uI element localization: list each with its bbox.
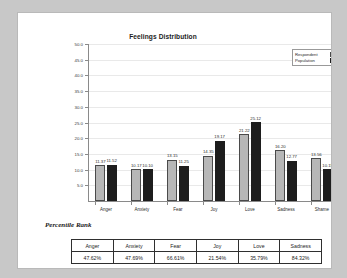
chart-legend: Respondent Population — [292, 49, 331, 66]
x-tick-label-fear: Fear — [173, 207, 182, 212]
bar-value-label: 12.77 — [286, 154, 297, 159]
bar-fear-population — [179, 166, 189, 201]
table-value-cell-fear: 66.61% — [155, 252, 197, 264]
x-tick-label-shame: Shame — [315, 207, 329, 212]
bar-value-label: 21.22 — [239, 128, 250, 133]
table-value-cell-joy: 21.54% — [196, 252, 238, 264]
table-header-cell-fear: Fear — [155, 240, 197, 252]
y-tick-mark — [85, 44, 88, 45]
y-tick-mark — [85, 185, 88, 186]
bar-fear-respondent — [167, 160, 177, 201]
gridline — [88, 123, 331, 124]
bar-joy-respondent — [203, 156, 213, 201]
table-row: 47.62%47.69%66.61%21.54%35.79%84.32% — [72, 252, 322, 264]
legend-swatch-respondent-icon — [330, 52, 331, 57]
bar-anxiety-respondent — [131, 169, 141, 201]
bar-value-label: 11.25 — [178, 159, 188, 164]
x-tick-mark — [275, 202, 276, 205]
bar-joy-population — [215, 141, 225, 201]
legend-label-respondent: Respondent — [295, 52, 318, 57]
table-header-cell-joy: Joy — [196, 240, 238, 252]
gridline — [88, 75, 331, 76]
table-header-row: AngerAnxietyFearJoyLoveSadness — [72, 240, 322, 252]
x-tick-label-joy: Joy — [210, 207, 217, 212]
y-tick-mark — [85, 60, 88, 61]
y-tick-mark — [85, 138, 88, 139]
report-page: Feelings Distribution 5.010.015.020.025.… — [17, 12, 332, 269]
gridline — [88, 138, 331, 139]
x-tick-label-sadness: Sadness — [277, 207, 295, 212]
bar-anger-respondent — [95, 165, 105, 201]
bar-value-label: 25.12 — [250, 116, 261, 121]
plot-area: 5.010.015.020.025.030.035.040.045.050.0 … — [88, 44, 331, 202]
bar-sadness-respondent — [275, 150, 285, 201]
y-tick-mark — [85, 75, 88, 76]
x-tick-mark — [95, 202, 96, 205]
x-tick-mark — [131, 202, 132, 205]
x-tick-mark — [203, 202, 204, 205]
table-header-cell-anger: Anger — [72, 240, 114, 252]
bar-love-respondent — [239, 134, 249, 201]
x-axis — [88, 201, 331, 202]
table-header-cell-sadness: Sadness — [280, 240, 322, 252]
y-tick-mark — [85, 91, 88, 92]
table-header-cell-love: Love — [238, 240, 280, 252]
percentile-rank-table: AngerAnxietyFearJoyLoveSadness 47.62%47.… — [71, 239, 322, 264]
chart-title: Feelings Distribution — [18, 33, 308, 40]
bar-anxiety-population — [143, 169, 153, 201]
x-tick-mark — [311, 202, 312, 205]
gridline — [88, 91, 331, 92]
bar-value-label: 13.15 — [167, 153, 178, 158]
legend-item-population: Population — [295, 58, 331, 64]
bar-value-label: 10.10 — [142, 163, 153, 168]
x-tick-mark — [239, 202, 240, 205]
table-header-cell-anxiety: Anxiety — [113, 240, 155, 252]
y-tick-label: 40.0 — [74, 73, 83, 78]
y-tick-label: 35.0 — [74, 89, 83, 94]
bar-value-label: 11.37 — [95, 159, 105, 164]
bar-value-label: 14.35 — [203, 149, 214, 154]
bar-value-label: 16.20 — [275, 144, 286, 149]
y-tick-mark — [85, 154, 88, 155]
table-value-cell-sadness: 84.32% — [280, 252, 322, 264]
x-tick-label-anger: Anger — [100, 207, 112, 212]
x-tick-label-love: Love — [245, 207, 255, 212]
table-value-cell-anger: 47.62% — [72, 252, 114, 264]
bar-shame-respondent — [311, 158, 321, 201]
y-tick-label: 20.0 — [74, 136, 83, 141]
y-tick-label: 30.0 — [74, 104, 83, 109]
x-tick-mark — [167, 202, 168, 205]
bar-sadness-population — [287, 161, 297, 201]
x-tick-label-anxiety: Anxiety — [135, 207, 150, 212]
feelings-distribution-chart: Feelings Distribution 5.010.015.020.025.… — [18, 13, 331, 219]
y-tick-mark — [85, 170, 88, 171]
y-tick-label: 5.0 — [77, 183, 83, 188]
gridline — [88, 107, 331, 108]
bar-love-population — [251, 122, 261, 201]
y-axis — [88, 44, 89, 202]
bar-shame-population — [323, 169, 332, 201]
y-tick-mark — [85, 123, 88, 124]
y-tick-label: 25.0 — [74, 120, 83, 125]
bar-value-label: 19.17 — [214, 134, 225, 139]
bar-anger-population — [107, 165, 117, 201]
legend-label-population: Population — [295, 58, 315, 63]
table-value-cell-love: 35.79% — [238, 252, 280, 264]
percentile-rank-caption: Percentile Rank — [45, 221, 91, 229]
y-tick-label: 50.0 — [74, 42, 83, 47]
y-tick-label: 15.0 — [74, 151, 83, 156]
bar-value-label: 11.52 — [106, 158, 116, 163]
y-tick-mark — [85, 107, 88, 108]
y-tick-label: 45.0 — [74, 57, 83, 62]
legend-swatch-population-icon — [330, 58, 331, 63]
bar-value-label: 10.17 — [131, 163, 142, 168]
table-value-cell-anxiety: 47.69% — [113, 252, 155, 264]
gridline — [88, 44, 331, 45]
bar-value-label: 10.15 — [322, 163, 331, 168]
bar-value-label: 13.56 — [311, 152, 322, 157]
y-tick-label: 10.0 — [74, 167, 83, 172]
